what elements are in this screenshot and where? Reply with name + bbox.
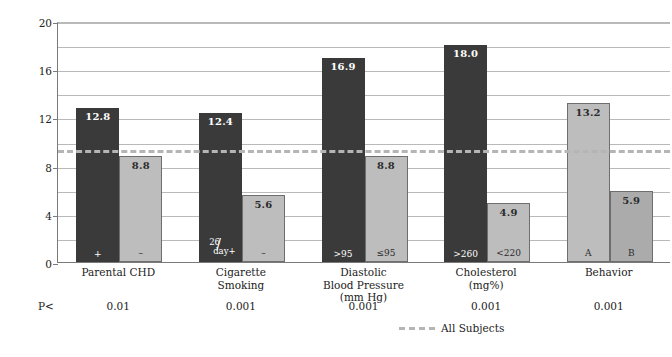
y-axis-tick-mark (53, 216, 58, 217)
bar: 4.9<220 (487, 203, 530, 262)
x-axis-group-label-line: Diastolic (302, 266, 425, 279)
legend-label-all-subjects: All Subjects (441, 322, 504, 334)
bar-value-label: 5.9 (611, 195, 652, 206)
y-axis-tick-label: 12 (26, 113, 52, 125)
bar-category-tag: >260 (444, 250, 487, 259)
y-axis-tick-mark (53, 119, 58, 120)
x-axis-group-label-line: Cholesterol (425, 266, 548, 279)
bar-category-tag: B (611, 249, 652, 258)
bar-value-label: 12.8 (76, 111, 119, 122)
gridline (58, 23, 670, 24)
p-value: 0.001 (425, 300, 548, 312)
p-value: 0.001 (302, 300, 425, 312)
bar-category-tag: >95 (322, 250, 365, 259)
legend-dashed-line-icon (399, 327, 435, 330)
bar: 13.2A (567, 103, 610, 262)
p-value-row-label: P< (38, 300, 54, 312)
bar-category-tag: 26/day+ (199, 247, 242, 256)
bar-category-tag: ≤95 (366, 249, 407, 258)
p-value: 0.001 (180, 300, 303, 312)
bar-value-label: 13.2 (568, 107, 609, 118)
bar: 18.0>260 (444, 45, 487, 262)
bar: 8.8≤95 (365, 156, 408, 262)
bar-category-tag: – (243, 249, 284, 258)
bar-value-label: 12.4 (199, 116, 242, 127)
chart-legend: All Subjects (399, 322, 504, 334)
x-axis-group-label: CigaretteSmoking (180, 266, 303, 291)
x-axis-group-label: Behavior (547, 266, 670, 279)
bar-category-tag: – (120, 249, 161, 258)
bar: 5.6– (242, 195, 285, 262)
y-axis-tick-mark (53, 71, 58, 72)
bar-value-label: 8.8 (120, 160, 161, 171)
y-axis-title-wrap: Annual Rate/1,000 at Risk (0, 22, 28, 263)
bar-category-tag: + (76, 250, 119, 259)
x-axis-group-label-line: Behavior (547, 266, 670, 279)
bar-category-tag: A (568, 249, 609, 258)
y-axis-tick-label: 20 (26, 17, 52, 29)
x-axis-group-label-line: Smoking (180, 279, 303, 292)
p-value: 0.001 (547, 300, 670, 312)
page-bleed-strip (0, 352, 672, 357)
gridline (58, 47, 670, 48)
p-value: 0.01 (57, 300, 180, 312)
bar: 12.8+ (76, 108, 119, 262)
y-axis-tick-label: 8 (26, 162, 52, 174)
x-axis-group-label: DiastolicBlood Pressure(mm Hg) (302, 266, 425, 304)
x-axis-group-label-line: (mg%) (425, 279, 548, 292)
y-axis-tick-mark (53, 264, 58, 265)
bar: 5.9B (610, 191, 653, 262)
bar-value-label: 8.8 (366, 160, 407, 171)
bar: 16.9>95 (322, 58, 365, 262)
reference-line-all-subjects (58, 150, 670, 153)
y-axis-tick-label: 4 (26, 210, 52, 222)
bar: 8.8– (119, 156, 162, 262)
p-value-row: P< 0.010.0010.0010.0010.001 (0, 300, 672, 316)
x-axis-group-label: Parental CHD (57, 266, 180, 279)
bar-category-tag: <220 (488, 249, 529, 258)
y-axis-tick-mark (53, 23, 58, 24)
y-axis-tick-mark (53, 168, 58, 169)
bar-value-label: 16.9 (322, 61, 365, 72)
y-axis-tick-label: 16 (26, 65, 52, 77)
x-axis-group-label-line: Blood Pressure (302, 279, 425, 292)
y-axis-tick-label: 0 (26, 258, 52, 270)
bar-value-label: 4.9 (488, 207, 529, 218)
bar-value-label: 5.6 (243, 199, 284, 210)
plot-area: 04812162012.8+8.8–12.426/day+5.6–16.9>95… (57, 22, 670, 263)
x-axis-group-label-line: Parental CHD (57, 266, 180, 279)
chart-figure: Annual Rate/1,000 at Risk 04812162012.8+… (0, 0, 672, 357)
bar: 12.426/day+ (199, 113, 242, 262)
bar-value-label: 18.0 (444, 48, 487, 59)
x-axis-group-label: Cholesterol(mg%) (425, 266, 548, 291)
x-axis-group-label-line: Cigarette (180, 266, 303, 279)
